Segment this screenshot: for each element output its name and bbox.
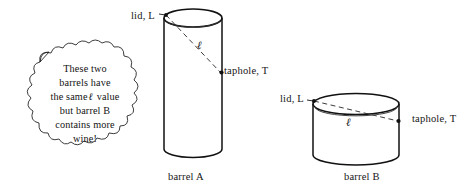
barrel-b-taphole-point (396, 119, 400, 123)
callout-ell-symbol: ℓ (88, 91, 94, 102)
callout-line-4: but barrel B (36, 104, 134, 118)
barrel-b-name-label: barrel B (344, 171, 380, 182)
callout-line-3: the sameℓ value (36, 90, 134, 104)
barrel-b-diagonal-label: ℓ (346, 116, 351, 128)
barrel-a-taphole-point (219, 70, 223, 74)
callout-line-5: contains more (36, 118, 134, 132)
callout-line-3-prefix: the same (50, 91, 87, 102)
barrel-b-taphole-label: taphole, T (412, 113, 456, 124)
barrel-b-shape (307, 94, 401, 166)
callout-line-2: barrels have (36, 76, 134, 90)
barrel-a-shape (159, 9, 224, 158)
barrel-a-diagonal-label: ℓ (197, 39, 202, 51)
barrel-a-base-arc (164, 149, 222, 158)
barrel-b-lid-label: lid, L (280, 93, 304, 104)
figure-canvas: These two barrels have the sameℓ value b… (0, 0, 472, 195)
barrel-a-taphole-label: taphole, T (224, 65, 268, 76)
barrel-a-lid-label: lid, L (131, 10, 155, 21)
barrel-b-base-arc (313, 155, 399, 165)
callout-line-3-suffix: value (97, 91, 120, 102)
barrel-a-name-label: barrel A (168, 171, 204, 182)
callout-text: These two barrels have the sameℓ value b… (36, 62, 134, 147)
callout-line-6: wine! (36, 132, 134, 146)
callout-line-1: These two (36, 62, 134, 76)
